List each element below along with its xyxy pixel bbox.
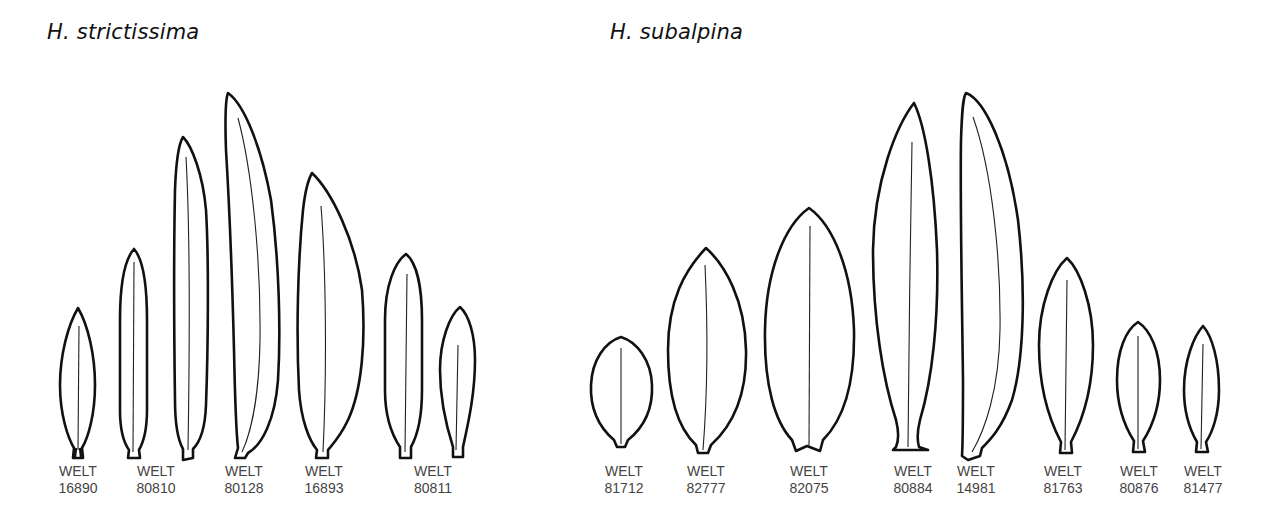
specimen-number: 82777 bbox=[676, 480, 736, 497]
herbarium-code: WELT bbox=[1033, 463, 1093, 480]
specimen-label-80128: WELT 80128 bbox=[214, 463, 274, 497]
herbarium-code: WELT bbox=[883, 463, 943, 480]
leaf-illustration-plate bbox=[0, 0, 1282, 525]
specimen-label-80810: WELT 80810 bbox=[126, 463, 186, 497]
herbarium-code: WELT bbox=[1173, 463, 1233, 480]
specimen-number: 16893 bbox=[294, 480, 354, 497]
specimen-number: 80884 bbox=[883, 480, 943, 497]
specimen-number: 82075 bbox=[779, 480, 839, 497]
specimen-number: 81477 bbox=[1173, 480, 1233, 497]
specimen-number: 81763 bbox=[1033, 480, 1093, 497]
leaf-80811-b bbox=[440, 307, 475, 457]
leaf-82075 bbox=[765, 208, 854, 451]
leaf-group-strictissima bbox=[60, 93, 475, 460]
leaf-80884 bbox=[873, 103, 937, 450]
specimen-label-14981: WELT 14981 bbox=[946, 463, 1006, 497]
specimen-label-81712: WELT 81712 bbox=[594, 463, 654, 497]
specimen-label-80811: WELT 80811 bbox=[403, 463, 463, 497]
leaf-80876 bbox=[1117, 322, 1160, 452]
specimen-label-16893: WELT 16893 bbox=[294, 463, 354, 497]
specimen-label-80884: WELT 80884 bbox=[883, 463, 943, 497]
herbarium-code: WELT bbox=[126, 463, 186, 480]
specimen-label-82777: WELT 82777 bbox=[676, 463, 736, 497]
leaf-82777 bbox=[668, 248, 746, 453]
leaf-80810-a bbox=[120, 249, 147, 458]
leaf-16890 bbox=[60, 308, 95, 458]
specimen-number: 80811 bbox=[403, 480, 463, 497]
leaf-81763 bbox=[1039, 258, 1093, 453]
herbarium-code: WELT bbox=[48, 463, 108, 480]
leaf-80128 bbox=[225, 93, 279, 458]
herbarium-code: WELT bbox=[676, 463, 736, 480]
herbarium-code: WELT bbox=[294, 463, 354, 480]
specimen-number: 80128 bbox=[214, 480, 274, 497]
herbarium-code: WELT bbox=[946, 463, 1006, 480]
specimen-number: 81712 bbox=[594, 480, 654, 497]
specimen-label-81477: WELT 81477 bbox=[1173, 463, 1233, 497]
specimen-label-81763: WELT 81763 bbox=[1033, 463, 1093, 497]
herbarium-code: WELT bbox=[779, 463, 839, 480]
leaf-81712 bbox=[591, 337, 652, 447]
leaf-16893 bbox=[298, 173, 364, 458]
leaf-group-subalpina bbox=[591, 93, 1219, 460]
specimen-label-16890: WELT 16890 bbox=[48, 463, 108, 497]
specimen-label-82075: WELT 82075 bbox=[779, 463, 839, 497]
herbarium-code: WELT bbox=[403, 463, 463, 480]
specimen-label-80876: WELT 80876 bbox=[1109, 463, 1169, 497]
herbarium-code: WELT bbox=[594, 463, 654, 480]
specimen-number: 80810 bbox=[126, 480, 186, 497]
leaf-81477 bbox=[1184, 326, 1219, 452]
leaf-14981 bbox=[961, 93, 1023, 460]
leaf-80810-b bbox=[174, 137, 208, 460]
specimen-number: 14981 bbox=[946, 480, 1006, 497]
herbarium-code: WELT bbox=[214, 463, 274, 480]
specimen-number: 16890 bbox=[48, 480, 108, 497]
specimen-number: 80876 bbox=[1109, 480, 1169, 497]
herbarium-code: WELT bbox=[1109, 463, 1169, 480]
leaf-80811-a bbox=[385, 254, 422, 458]
